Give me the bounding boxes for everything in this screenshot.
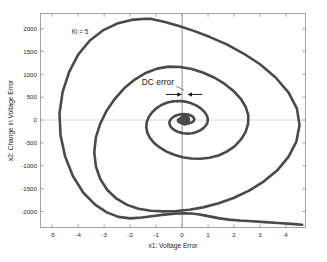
trajectory-sample-dot xyxy=(277,222,279,224)
x-tick-label: -5 xyxy=(49,231,55,238)
trajectory-sample-dot xyxy=(211,216,213,218)
equilibrium-point xyxy=(179,114,190,125)
trajectory-sample-dot xyxy=(182,212,184,214)
y-tick-label: -500 xyxy=(25,139,38,146)
trajectory-sample-dot xyxy=(301,224,303,226)
trajectory-sample-dot xyxy=(204,215,206,217)
trajectory-sample-dot xyxy=(173,213,175,215)
y-tick-label: 1000 xyxy=(23,71,37,78)
x-tick-label: 1 xyxy=(206,231,210,238)
trajectory-sample-dot xyxy=(190,213,192,215)
x-tick-label: 4 xyxy=(284,231,288,238)
x-tick-label: 0 xyxy=(180,231,184,238)
trajectory-sample-dot xyxy=(197,213,199,215)
phase-plane-figure: -5-4-3-2-101234 2000150010005000-500-100… xyxy=(0,0,327,262)
x-tick-label: -2 xyxy=(127,231,133,238)
trajectory-sample-dot xyxy=(238,219,240,221)
x-tick-label: -1 xyxy=(153,231,159,238)
gain-annotation-label: Ki = 5 xyxy=(72,28,89,35)
trajectory-sample-dot xyxy=(251,220,253,222)
y-tick-label: -1000 xyxy=(21,162,37,169)
y-tick-label: 0 xyxy=(34,116,38,123)
equilibrium-marker xyxy=(179,114,190,125)
y-tick-label: 500 xyxy=(27,93,38,100)
phase-plane-chart: -5-4-3-2-101234 2000150010005000-500-100… xyxy=(0,0,327,262)
y-tick-label: -1500 xyxy=(21,185,37,192)
x-tick-label: 2 xyxy=(232,231,236,238)
x-axis-title: x1: Voltage Error xyxy=(148,242,198,250)
trajectory-sample-dot xyxy=(219,217,221,219)
dc-error-label: DC error xyxy=(142,77,174,87)
x-tick-label: 3 xyxy=(258,231,262,238)
x-tick-label: -4 xyxy=(75,231,81,238)
y-axis-title: x2: Change in Voltage Error xyxy=(7,79,15,161)
trajectory-sample-dot xyxy=(228,219,230,221)
x-tick-label: -3 xyxy=(101,231,107,238)
trajectory-sample-dot xyxy=(264,221,266,223)
trajectory-sample-dot xyxy=(290,223,292,225)
y-tick-label: -2000 xyxy=(21,208,37,215)
y-tick-label: 2000 xyxy=(23,25,37,32)
y-tick-label: 1500 xyxy=(23,48,37,55)
